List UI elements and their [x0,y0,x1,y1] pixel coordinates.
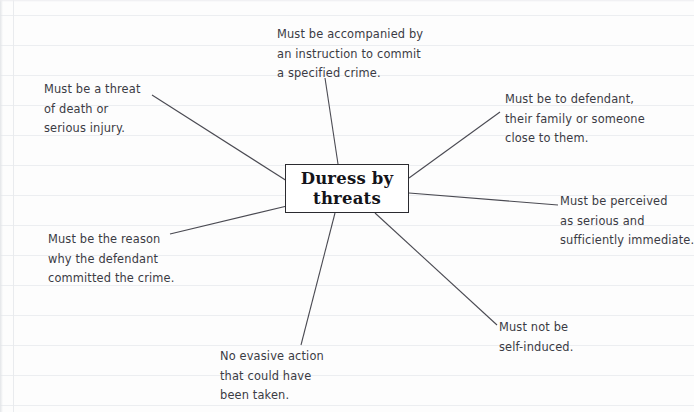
branch-line: close to them. [505,129,645,149]
branch-line: sufficiently immediate. [560,231,694,251]
branch-line: Must be to defendant, [505,90,645,110]
central-node-line-1: Duress by [301,169,394,189]
branch-label-threat[interactable]: Must be a threat of death or serious inj… [44,80,141,139]
branch-line: self-induced. [499,338,574,358]
branch-line: been taken. [220,386,324,406]
branch-line: as serious and [560,212,694,232]
branch-line: their family or someone [505,110,645,130]
branch-line: why the defendant [48,250,175,270]
central-node[interactable]: Duress by threats [285,164,409,213]
branch-label-no-evasive[interactable]: No evasive action that could have been t… [220,347,324,406]
branch-line: of death or [44,100,141,120]
branch-line: Must be perceived [560,192,694,212]
branch-line: that could have [220,367,324,387]
branch-label-perceived[interactable]: Must be perceived as serious and suffici… [560,192,694,251]
central-node-line-2: threats [313,189,381,209]
branch-line: serious injury. [44,119,141,139]
connector-reason [170,206,287,234]
connector-accompanied [325,78,338,164]
branch-line: Must be a threat [44,80,141,100]
branch-label-accompanied[interactable]: Must be accompanied by an instruction to… [277,25,423,84]
branch-line: committed the crime. [48,269,175,289]
connector-no-evasive [301,213,335,345]
connector-self-induced [375,213,497,325]
connector-defendant [409,112,500,178]
branch-line: No evasive action [220,347,324,367]
connector-threat [152,95,287,181]
branch-line: Must be the reason [48,230,175,250]
mindmap-page: Duress by threats Must be accompanied by… [0,0,694,412]
branch-line: Must be accompanied by [277,25,423,45]
branch-label-defendant[interactable]: Must be to defendant, their family or so… [505,90,645,149]
branch-line: Must not be [499,318,574,338]
connector-perceived [409,193,558,205]
branch-label-reason[interactable]: Must be the reason why the defendant com… [48,230,175,289]
branch-label-self-induced[interactable]: Must not be self-induced. [499,318,574,357]
branch-line: a specified crime. [277,64,423,84]
branch-line: an instruction to commit [277,45,423,65]
